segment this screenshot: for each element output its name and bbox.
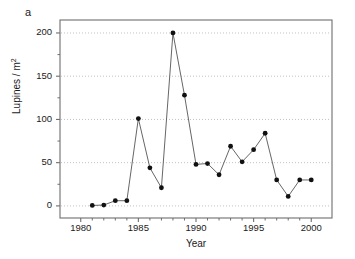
y-axis-major-ticks [56,33,60,206]
x-tick-label: 1990 [176,222,216,233]
y-tick-label: 100 [18,113,52,124]
x-tick-label: 1980 [61,222,101,233]
y-tick-label: 0 [18,199,52,210]
y-tick-label: 150 [18,70,52,81]
x-tick-label: 2000 [291,222,331,233]
x-tick-label: 1985 [118,222,158,233]
y-tick-label: 50 [18,156,52,167]
chart-plot-area [0,0,355,259]
figure-panel-a: a Lupines / m2 Year 050100150200 1980198… [0,0,355,259]
x-tick-label: 1995 [234,222,274,233]
y-tick-label: 200 [18,26,52,37]
grid-lines [61,33,331,206]
